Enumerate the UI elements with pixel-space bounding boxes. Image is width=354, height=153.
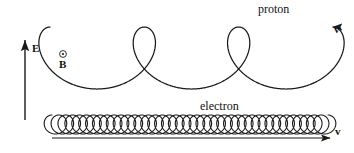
electron-velocity-label: v xyxy=(335,126,341,137)
proton-label: proton xyxy=(258,3,289,15)
electric-field-label: E xyxy=(32,43,39,54)
trajectory-diagram-svg xyxy=(0,0,354,153)
electron-trajectory xyxy=(44,115,336,138)
magnetic-field-out-of-page-icon xyxy=(60,51,67,58)
figure-canvas: proton electron E B v v xyxy=(0,0,354,153)
proton-trajectory xyxy=(39,27,344,89)
proton-velocity-label: v xyxy=(334,24,340,35)
magnetic-field-label: B xyxy=(59,59,66,70)
electron-label: electron xyxy=(200,100,239,112)
